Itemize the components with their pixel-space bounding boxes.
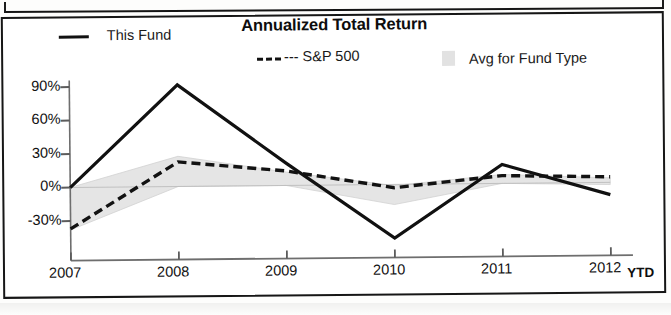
chart-plot-area	[0, 0, 671, 315]
series-line-this-fund	[69, 81, 610, 241]
scanned-page-background: Annualized Total Return This Fund --- S&…	[0, 0, 671, 315]
avg-fund-type-band	[70, 152, 611, 230]
chart-content-layer: Annualized Total Return This Fund --- S&…	[0, 0, 671, 315]
